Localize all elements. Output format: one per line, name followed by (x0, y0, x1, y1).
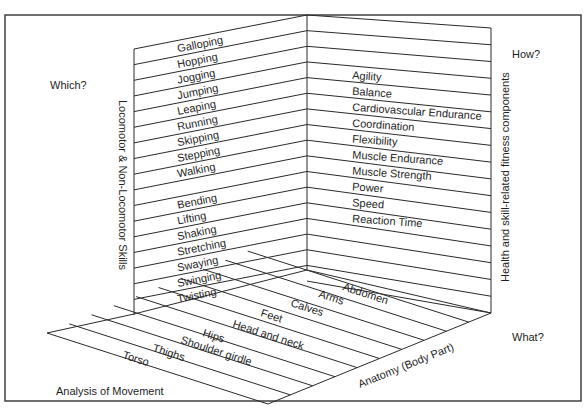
fitness-component-item: Flexibility (352, 133, 398, 148)
fitness-component-item: Muscle Endurance (352, 149, 444, 167)
skill-item: Walking (176, 160, 216, 179)
what-label: What? (512, 331, 544, 343)
diagram-canvas: Which? How? What? Locomotor & Non-Locomo… (0, 0, 586, 409)
fitness-component-item: Power (352, 180, 384, 194)
how-label: How? (512, 48, 540, 60)
which-label: Which? (50, 79, 87, 91)
body-part-item: Abdomen (341, 280, 390, 306)
fitness-component-item: Agility (352, 69, 383, 83)
analysis-caption: Analysis of Movement (56, 385, 164, 397)
body-part-item: Feet (259, 306, 284, 324)
fitness-components-list: AgilityBalanceCardiovascular EnduranceCo… (352, 69, 482, 229)
left-wall-title: Locomotor & Non-Locomotor Skills (117, 100, 129, 270)
fitness-component-item: Speed (352, 196, 385, 210)
right-wall (307, 15, 491, 313)
left-wall (134, 15, 307, 315)
skills-list: GallopingHoppingJoggingJumpingLeapingRun… (176, 34, 227, 305)
movement-analysis-diagram: Which? How? What? Locomotor & Non-Locomo… (0, 0, 586, 409)
body-part-item: Torso (121, 348, 150, 368)
skill-item: Bending (176, 191, 218, 211)
right-wall-title: Health and skill-related fitness compone… (499, 72, 511, 282)
fitness-component-item: Balance (352, 85, 393, 100)
